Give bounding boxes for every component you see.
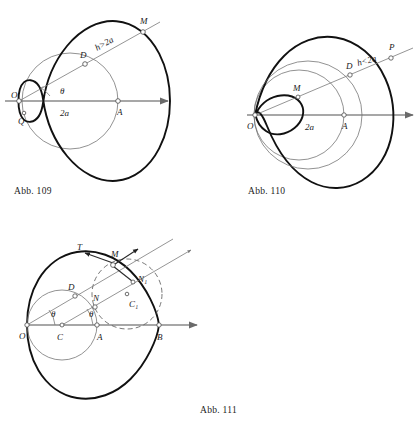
tangent-arrow-T xyxy=(85,253,113,263)
radius-vector-ray xyxy=(19,22,160,101)
label-C1: C₁ xyxy=(129,299,138,309)
ray-O-D-M xyxy=(27,239,173,325)
figure-abb-110: O M A D P 2a h<2a Abb. 110 xyxy=(245,18,416,193)
point-C1-marker xyxy=(125,292,129,296)
label-A: A xyxy=(96,332,103,342)
label-B: B xyxy=(157,332,163,342)
label-C: C xyxy=(57,332,64,342)
label-diameter-2a: 2a xyxy=(60,108,70,118)
point-O-marker xyxy=(253,113,257,117)
figure-sheet: O Q A D M 2a θ h>2a Abb. 109 xyxy=(0,0,416,427)
figure-abb-109: O Q A D M 2a θ h>2a Abb. 109 xyxy=(0,0,210,185)
label-condition-h-lt-2a: h<2a xyxy=(356,53,378,68)
caption-abb-109: Abb. 109 xyxy=(14,186,52,196)
point-N1-marker xyxy=(131,280,135,284)
label-Q: Q xyxy=(18,116,25,126)
caption-abb-110: Abb. 110 xyxy=(248,186,285,196)
point-O-marker xyxy=(25,323,29,327)
point-B-marker xyxy=(157,323,161,327)
label-O: O xyxy=(11,90,18,100)
label-A: A xyxy=(341,121,348,131)
label-O: O xyxy=(19,331,26,341)
label-M: M xyxy=(139,16,148,26)
normal-segment-M-N1 xyxy=(113,266,132,281)
cardioid-lower xyxy=(27,325,159,399)
point-Q-marker xyxy=(22,111,26,115)
ray-C-N-N1 xyxy=(62,250,191,325)
point-A-marker xyxy=(116,99,121,104)
label-angle-theta-C: θ xyxy=(89,309,94,319)
point-M-marker xyxy=(141,30,146,35)
abb-110-drawing: O M A D P 2a h<2a xyxy=(245,18,416,193)
figure-abb-111: O C A B D N N₁ M T C₁ θ θ Abb. 111 xyxy=(5,214,285,414)
point-D-marker xyxy=(73,294,77,298)
point-M-marker xyxy=(296,95,300,99)
label-D: D xyxy=(345,61,353,71)
label-P: P xyxy=(388,42,395,52)
label-M: M xyxy=(292,83,301,93)
point-P-marker xyxy=(389,56,393,60)
label-N: N xyxy=(92,293,100,303)
label-D: D xyxy=(67,282,75,292)
abb-109-drawing: O Q A D M 2a θ h>2a xyxy=(0,0,210,185)
point-M-marker xyxy=(111,263,116,268)
label-diameter-2a: 2a xyxy=(305,122,315,132)
label-angle-theta: θ xyxy=(60,86,65,96)
point-A-marker xyxy=(95,323,99,327)
label-O: O xyxy=(247,121,254,131)
point-A-marker xyxy=(342,113,346,117)
label-angle-theta-O: θ xyxy=(51,309,56,319)
label-N1: N₁ xyxy=(137,274,147,284)
point-D-marker xyxy=(348,73,352,77)
label-M: M xyxy=(110,249,119,259)
point-N-marker xyxy=(93,305,97,309)
label-A: A xyxy=(116,107,123,117)
abb-111-drawing: O C A B D N N₁ M T C₁ θ θ xyxy=(5,214,285,414)
point-C-marker xyxy=(60,323,64,327)
label-D: D xyxy=(79,50,87,60)
caption-abb-111: Abb. 111 xyxy=(200,405,237,415)
label-condition-h-gt-2a: h>2a xyxy=(93,34,115,52)
point-D-marker xyxy=(83,62,88,67)
